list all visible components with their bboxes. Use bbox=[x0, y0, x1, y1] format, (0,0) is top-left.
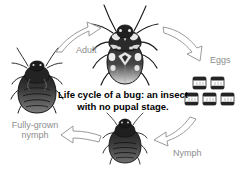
arrow-nymph-to-fgn bbox=[61, 126, 101, 143]
nymph-illustration bbox=[103, 113, 147, 164]
arrow-adult-to-eggs bbox=[163, 27, 202, 61]
adult-bug-illustration bbox=[92, 5, 158, 85]
stage-label-adult: Adult bbox=[76, 45, 97, 55]
egg bbox=[221, 93, 234, 105]
egg bbox=[211, 77, 224, 89]
egg-cluster-illustration bbox=[185, 77, 234, 105]
stage-label-nymph: Nymph bbox=[173, 148, 202, 158]
diagram-canvas bbox=[0, 0, 245, 174]
arrow-eggs-to-nymph bbox=[154, 117, 196, 146]
stage-label-eggs: Eggs bbox=[210, 55, 231, 65]
egg bbox=[193, 77, 206, 89]
life-cycle-diagram: Adult Eggs Nymph Fully-grown nymph Life … bbox=[0, 0, 245, 174]
stage-label-fully-grown-nymph: Fully-grown nymph bbox=[5, 120, 65, 140]
fully-grown-nymph-illustration bbox=[11, 48, 63, 113]
egg bbox=[203, 93, 216, 105]
diagram-caption: Life cycle of a bug: an insect with no p… bbox=[58, 89, 188, 112]
